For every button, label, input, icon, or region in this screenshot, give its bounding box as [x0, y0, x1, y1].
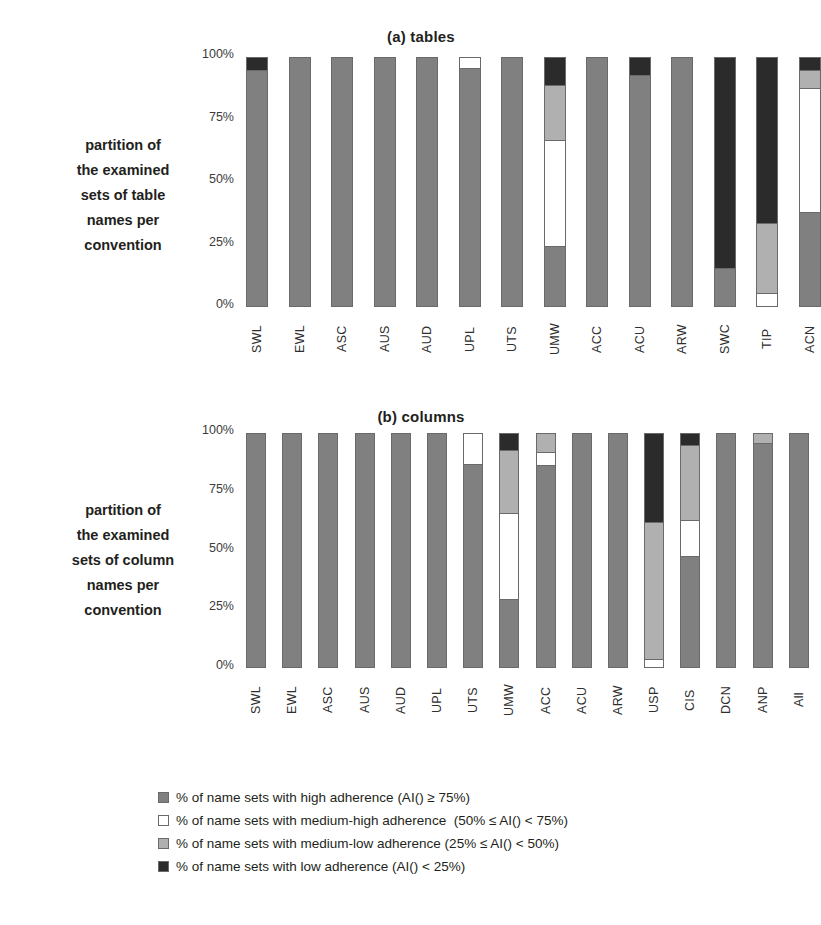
stacked-bar: [544, 57, 566, 307]
y-axis-columns: 0%25%50%75%100%: [196, 430, 240, 665]
x-axis-label: ARW: [675, 316, 689, 362]
stacked-bar: [756, 57, 778, 307]
legend-item[interactable]: % of name sets with high adherence (AI()…: [158, 786, 758, 809]
stacked-bar: [318, 433, 338, 668]
x-axis-label: SWL: [249, 677, 263, 723]
caption-line: partition of: [28, 498, 218, 523]
bar-group: All: [789, 433, 809, 723]
y-axis-tick: 75%: [209, 482, 234, 496]
caption-line: sets of table: [28, 183, 218, 208]
y-axis-caption-tables: partition ofthe examinedsets of tablenam…: [28, 133, 218, 258]
bar-segment-high: [283, 434, 301, 667]
bar-group: ARW: [608, 433, 628, 723]
x-axis-label: EWL: [293, 316, 307, 362]
x-axis-label: CIS: [683, 677, 697, 723]
caption-line: sets of column: [28, 548, 218, 573]
y-axis-tick: 25%: [209, 235, 234, 249]
bar-segment-high: [630, 76, 650, 306]
stacked-bar: [463, 433, 483, 668]
bar-group: CIS: [680, 433, 700, 723]
bar-segment-low: [247, 58, 267, 71]
caption-line: partition of: [28, 133, 218, 158]
legend-label: % of name sets with medium-low adherence…: [176, 836, 559, 851]
bar-group: UTS: [463, 433, 483, 723]
bar-group: SWL: [246, 57, 268, 362]
bar-group: AUS: [374, 57, 396, 362]
stacked-bar: [789, 433, 809, 668]
y-axis-caption-columns: partition ofthe examinedsets of columnna…: [28, 498, 218, 623]
bar-segment-medium-low: [757, 224, 777, 294]
stacked-bar: [374, 57, 396, 307]
bar-group: AUD: [391, 433, 411, 723]
stacked-bar: [501, 57, 523, 307]
bar-group: ACN: [799, 57, 821, 362]
stacked-bar: [289, 57, 311, 307]
bars-columns: SWLEWLASCAUSAUDUPLUTSUMWACCACUARWUSPCISD…: [246, 430, 809, 723]
bar-segment-low: [630, 58, 650, 76]
y-axis-tables: 0%25%50%75%100%: [196, 54, 240, 304]
legend-item[interactable]: % of name sets with medium-low adherence…: [158, 832, 758, 855]
bar-segment-medium-high: [537, 453, 555, 466]
bar-segment-low: [715, 58, 735, 269]
bar-segment-medium-high: [757, 294, 777, 306]
x-axis-label: SWL: [250, 316, 264, 362]
legend-label: % of name sets with high adherence (AI()…: [176, 790, 470, 805]
bar-segment-medium-high: [681, 521, 699, 557]
bar-group: UMW: [499, 433, 519, 723]
stacked-bar: [459, 57, 481, 307]
bar-segment-high: [247, 434, 265, 667]
x-axis-label: ANP: [756, 677, 770, 723]
x-axis-label: DCN: [719, 677, 733, 723]
bar-group: SWC: [714, 57, 736, 362]
bar-segment-medium-low: [681, 446, 699, 521]
x-axis-label: AUS: [358, 677, 372, 723]
x-axis-label: EWL: [285, 677, 299, 723]
x-axis-label: ACU: [575, 677, 589, 723]
bar-group: ACC: [586, 57, 608, 362]
x-axis-label: ASC: [321, 677, 335, 723]
legend-item[interactable]: % of name sets with low adherence (AI() …: [158, 855, 758, 878]
bar-group: EWL: [289, 57, 311, 362]
bar-segment-high: [717, 434, 735, 667]
stacked-bar: [246, 433, 266, 668]
caption-line: the examined: [28, 523, 218, 548]
y-axis-tick: 100%: [202, 423, 234, 437]
bar-group: AUD: [416, 57, 438, 362]
stacked-bar: [572, 433, 592, 668]
x-axis-label: AUD: [420, 316, 434, 362]
x-axis-label: UPL: [430, 677, 444, 723]
bar-group: EWL: [282, 433, 302, 723]
bar-segment-high: [356, 434, 374, 667]
chart-panel-columns: (b) columns partition ofthe examinedsets…: [0, 408, 812, 768]
chart-title-tables: (a) tables: [0, 28, 812, 45]
bar-segment-medium-low: [500, 451, 518, 514]
stacked-bar: [355, 433, 375, 668]
bar-group: UTS: [501, 57, 523, 362]
bar-segment-high: [290, 58, 310, 306]
bar-group: ACU: [572, 433, 592, 723]
bar-segment-medium-low: [800, 71, 820, 89]
legend-item[interactable]: % of name sets with medium-high adherenc…: [158, 809, 758, 832]
legend-swatch-high-icon: [158, 792, 169, 803]
bar-segment-low: [500, 434, 518, 451]
bar-segment-low: [800, 58, 820, 71]
bar-segment-low: [757, 58, 777, 224]
bar-segment-medium-high: [800, 89, 820, 213]
caption-line: names per: [28, 573, 218, 598]
bar-segment-high: [500, 600, 518, 667]
bar-segment-high: [573, 434, 591, 667]
stacked-bar: [799, 57, 821, 307]
bar-group: ASC: [331, 57, 353, 362]
x-axis-label: All: [792, 677, 806, 723]
bar-segment-high: [464, 465, 482, 667]
stacked-bar: [680, 433, 700, 668]
legend-swatch-medium-high-icon: [158, 815, 169, 826]
stacked-bar: [716, 433, 736, 668]
x-axis-label: ACC: [539, 677, 553, 723]
x-axis-label: USP: [647, 677, 661, 723]
bar-segment-high: [375, 58, 395, 306]
y-axis-tick: 0%: [216, 297, 234, 311]
x-axis-label: UMW: [548, 316, 562, 362]
x-axis-label: ACN: [803, 316, 817, 362]
bar-segment-high: [537, 466, 555, 667]
